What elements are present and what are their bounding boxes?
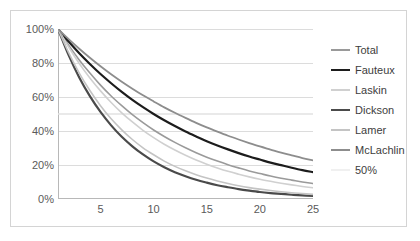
legend-label: Laskin xyxy=(355,85,387,96)
series-line-mclachlin xyxy=(58,29,313,160)
series-line-lamer xyxy=(58,29,313,194)
x-axis-tick-label: 20 xyxy=(254,203,266,215)
legend-label: Total xyxy=(355,45,378,56)
x-axis-tick-label: 10 xyxy=(148,203,160,215)
y-axis-tick-label: 60% xyxy=(10,92,54,102)
legend-line-icon xyxy=(331,65,350,75)
legend-line-icon xyxy=(331,85,350,95)
legend-label: Fauteux xyxy=(355,65,395,76)
legend-item-50-[interactable]: 50% xyxy=(331,160,405,180)
legend-item-lamer[interactable]: Lamer xyxy=(331,120,405,140)
chart-legend: TotalFauteuxLaskinDicksonLamerMcLachlin5… xyxy=(331,40,405,180)
legend-line-icon xyxy=(331,45,350,55)
legend-line-icon xyxy=(331,105,350,115)
legend-label: Dickson xyxy=(355,105,394,116)
legend-line-icon xyxy=(331,125,350,135)
y-axis-tick-label: 40% xyxy=(10,126,54,136)
x-axis-tick-label: 25 xyxy=(307,203,319,215)
y-axis-tick-label: 20% xyxy=(10,160,54,170)
legend-label: 50% xyxy=(355,165,377,176)
legend-item-total[interactable]: Total xyxy=(331,40,405,60)
y-axis-tick-label: 100% xyxy=(10,24,54,34)
plot-area xyxy=(58,29,313,199)
legend-label: Lamer xyxy=(355,125,386,136)
legend-item-dickson[interactable]: Dickson xyxy=(331,100,405,120)
x-axis-tick-label: 5 xyxy=(97,203,103,215)
legend-item-fauteux[interactable]: Fauteux xyxy=(331,60,405,80)
plot-svg xyxy=(58,29,313,199)
legend-line-icon xyxy=(331,145,350,155)
x-axis-tick-label: 15 xyxy=(201,203,213,215)
y-axis: 0%20%40%60%80%100% xyxy=(4,29,54,199)
legend-label: McLachlin xyxy=(355,145,405,156)
chart-container: 0%20%40%60%80%100% 510152025 TotalFauteu… xyxy=(0,0,420,241)
legend-item-laskin[interactable]: Laskin xyxy=(331,80,405,100)
series-lines xyxy=(58,29,313,196)
y-axis-tick-label: 80% xyxy=(10,58,54,68)
y-axis-tick-label: 0% xyxy=(10,194,54,204)
legend-item-mclachlin[interactable]: McLachlin xyxy=(331,140,405,160)
x-axis: 510152025 xyxy=(58,203,313,219)
legend-line-icon xyxy=(331,165,350,175)
